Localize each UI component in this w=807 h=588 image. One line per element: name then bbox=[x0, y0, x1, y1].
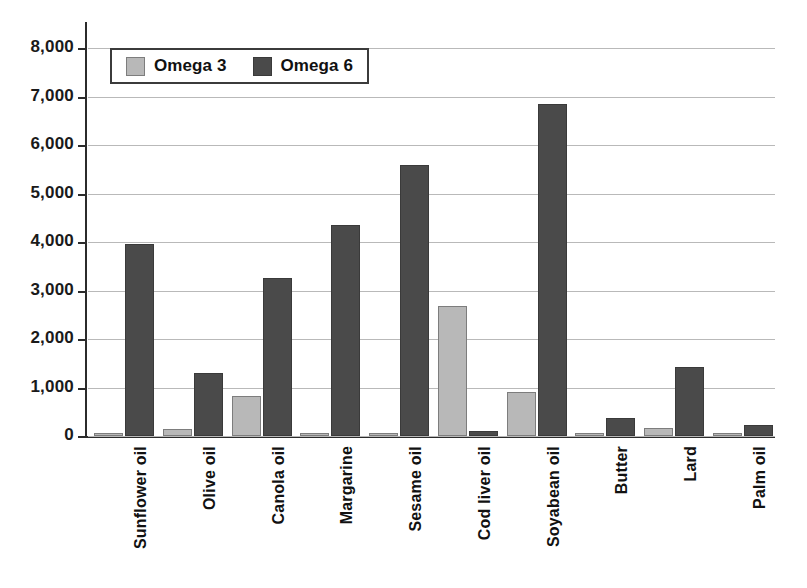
x-tick-label: Palm oil bbox=[751, 446, 769, 509]
bar-omega6 bbox=[606, 418, 635, 436]
bar-group bbox=[300, 48, 360, 436]
bar-group bbox=[232, 48, 292, 436]
bar-omega3 bbox=[575, 433, 604, 436]
x-tick-label: Canola oil bbox=[270, 446, 288, 524]
bar-group bbox=[644, 48, 704, 436]
bar-omega6 bbox=[125, 244, 154, 436]
y-tick-label: 1,000 bbox=[4, 377, 74, 397]
bar-omega3 bbox=[232, 396, 261, 436]
y-tick-label: 5,000 bbox=[4, 183, 74, 203]
y-tick-label: 8,000 bbox=[4, 37, 74, 57]
bar-omega6 bbox=[263, 278, 292, 436]
bar-omega6 bbox=[675, 367, 704, 436]
bar-omega3 bbox=[713, 433, 742, 436]
y-tick-label: 2,000 bbox=[4, 328, 74, 348]
bar-omega6 bbox=[194, 373, 223, 436]
bar-group bbox=[163, 48, 223, 436]
bar-group bbox=[369, 48, 429, 436]
gridline bbox=[88, 436, 775, 437]
legend-swatch-icon bbox=[253, 57, 272, 76]
x-tick-label: Sesame oil bbox=[407, 446, 425, 532]
x-tick-label: Margarine bbox=[338, 446, 356, 524]
bar-omega3 bbox=[369, 433, 398, 436]
bar-group bbox=[575, 48, 635, 436]
bar-omega6 bbox=[744, 425, 773, 436]
bar-chart: 01,0002,0003,0004,0005,0006,0007,0008,00… bbox=[0, 0, 807, 588]
x-tick-label: Lard bbox=[682, 446, 700, 481]
x-tick-label: Soyabean oil bbox=[545, 446, 563, 547]
bar-omega3 bbox=[644, 428, 673, 436]
bar-omega3 bbox=[300, 433, 329, 436]
bar-omega6 bbox=[469, 431, 498, 436]
legend-entry: Omega 6 bbox=[253, 56, 354, 76]
bar-group bbox=[713, 48, 773, 436]
bar-omega3 bbox=[94, 433, 123, 436]
bar-omega3 bbox=[438, 306, 467, 436]
x-tick-label: Cod liver oil bbox=[476, 446, 494, 540]
legend-label: Omega 3 bbox=[154, 56, 227, 76]
x-tick-label: Olive oil bbox=[201, 446, 219, 510]
bar-omega3 bbox=[507, 392, 536, 436]
bar-group bbox=[438, 48, 498, 436]
y-axis-line bbox=[85, 22, 87, 438]
chart-legend: Omega 3Omega 6 bbox=[110, 48, 369, 84]
y-tick-label: 7,000 bbox=[4, 86, 74, 106]
y-tick-label: 0 bbox=[4, 425, 74, 445]
bar-group bbox=[94, 48, 154, 436]
legend-label: Omega 6 bbox=[281, 56, 354, 76]
x-tick-label: Sunflower oil bbox=[132, 446, 150, 549]
bar-omega6 bbox=[400, 165, 429, 436]
bar-omega6 bbox=[538, 104, 567, 436]
y-axis-tick-labels: 01,0002,0003,0004,0005,0006,0007,0008,00… bbox=[0, 0, 74, 588]
x-tick-label: Butter bbox=[613, 446, 631, 494]
bar-omega6 bbox=[331, 225, 360, 436]
legend-swatch-icon bbox=[126, 57, 145, 76]
y-tick-label: 6,000 bbox=[4, 134, 74, 154]
y-tick-label: 3,000 bbox=[4, 280, 74, 300]
bar-omega3 bbox=[163, 429, 192, 436]
legend-entry: Omega 3 bbox=[126, 56, 227, 76]
plot-area bbox=[88, 48, 775, 436]
bar-group bbox=[507, 48, 567, 436]
y-tick-label: 4,000 bbox=[4, 231, 74, 251]
